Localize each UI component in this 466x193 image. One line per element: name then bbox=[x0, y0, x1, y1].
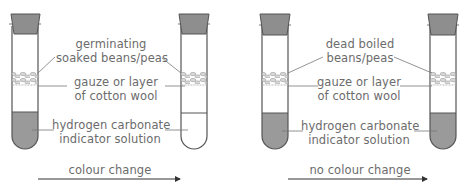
test-tube-germinating-start bbox=[9, 14, 41, 149]
label-solution-germinating: hydrogen carbonate indicator solution bbox=[52, 118, 168, 146]
seeds-germinating bbox=[13, 72, 38, 84]
label-line: soaked beans/peas bbox=[56, 51, 166, 65]
arrow-label-dead: no colour change bbox=[305, 163, 415, 177]
label-line: gauze or layer bbox=[66, 75, 166, 89]
label-line: indicator solution bbox=[301, 133, 417, 147]
stopper bbox=[11, 14, 40, 34]
label-line: dead boiled bbox=[310, 37, 410, 51]
label-line: germinating bbox=[56, 37, 166, 51]
label-gauze-dead: gauze or layer of cotton wool bbox=[309, 75, 409, 103]
label-solution-dead: hydrogen carbonate indicator solution bbox=[301, 119, 417, 147]
label-line: of cotton wool bbox=[66, 89, 166, 103]
label-line: hydrogen carbonate bbox=[52, 118, 168, 132]
label-gauze-germinating: gauze or layer of cotton wool bbox=[66, 75, 166, 103]
label-seeds-dead: dead boiled beans/peas bbox=[310, 37, 410, 65]
arrow-label-germinating: colour change bbox=[60, 163, 160, 177]
label-line: beans/peas bbox=[310, 51, 410, 65]
respiration-experiment-diagram: germinating soaked beans/peas gauze or l… bbox=[0, 0, 466, 193]
seeds-germinating bbox=[182, 72, 207, 84]
stopper bbox=[428, 14, 458, 35]
label-seeds-germinating: germinating soaked beans/peas bbox=[56, 37, 166, 65]
indicator-solution-coloured bbox=[12, 112, 38, 149]
seeds-dead bbox=[263, 72, 288, 84]
label-line: gauze or layer bbox=[309, 75, 409, 89]
stopper bbox=[260, 14, 290, 35]
test-tube-dead-start bbox=[259, 14, 291, 149]
label-line: indicator solution bbox=[52, 132, 168, 146]
label-line: hydrogen carbonate bbox=[301, 119, 417, 133]
stopper bbox=[179, 14, 209, 34]
label-line: of cotton wool bbox=[309, 89, 409, 103]
test-tube-germinating-end bbox=[178, 14, 210, 149]
test-tube-dead-end bbox=[427, 14, 459, 149]
seeds-dead bbox=[431, 72, 456, 84]
